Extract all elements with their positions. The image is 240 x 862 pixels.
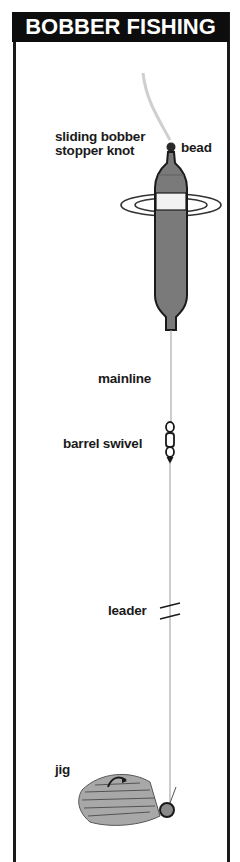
label-bead: bead	[181, 141, 212, 155]
barrel-swivel-icon	[166, 422, 174, 462]
label-jig: jig	[55, 763, 70, 777]
label-stopper-knot-line1: sliding bobber	[55, 130, 145, 144]
label-barrel-swivel: barrel swivel	[63, 437, 142, 451]
label-stopper-knot-line2: stopper knot	[55, 144, 134, 158]
label-leader: leader	[108, 604, 147, 618]
label-mainline: mainline	[98, 372, 151, 386]
bead-icon	[167, 143, 176, 152]
jig-icon	[79, 774, 176, 825]
bobber-icon	[155, 152, 187, 330]
tag-line-icon	[143, 73, 170, 140]
